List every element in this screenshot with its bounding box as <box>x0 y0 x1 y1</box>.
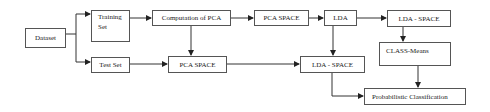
node-dataset: Dataset <box>25 28 66 48</box>
node-training-set-label-line2: Set <box>98 23 129 31</box>
node-class-means-label: CLASS-Means <box>386 47 429 55</box>
node-class-means: CLASS-Means <box>379 42 451 66</box>
node-computation-pca-label: Computation of PCA <box>162 14 222 22</box>
node-lda-space-top-label: LDA - SPACE <box>399 15 440 23</box>
node-test-set-label: Test Set <box>99 61 121 69</box>
node-test-set: Test Set <box>91 57 130 73</box>
node-training-set-label-line1: Training <box>98 13 129 21</box>
node-lda: LDA <box>324 10 357 26</box>
node-dataset-label: Dataset <box>35 34 56 42</box>
node-probabilistic-classification-label: Probabilistic Classification <box>372 93 448 101</box>
flowchart-diagram: Dataset Training Set Test Set Computatio… <box>0 0 490 112</box>
node-pca-space-bottom-label: PCA SPACE <box>179 61 215 69</box>
node-pca-space-bottom: PCA SPACE <box>168 56 227 73</box>
node-probabilistic-classification: Probabilistic Classification <box>364 88 466 105</box>
node-lda-space-middle: LDA - SPACE <box>300 56 365 73</box>
node-pca-space-top: PCA SPACE <box>254 10 309 26</box>
node-pca-space-top-label: PCA SPACE <box>263 14 299 22</box>
node-lda-label: LDA <box>333 14 347 22</box>
node-computation-pca: Computation of PCA <box>152 10 231 26</box>
arrow-lda-space-to-prob <box>332 72 363 96</box>
node-training-set: Training Set <box>91 10 130 42</box>
node-lda-space-top: LDA - SPACE <box>387 10 451 27</box>
node-lda-space-middle-label: LDA - SPACE <box>312 61 353 69</box>
